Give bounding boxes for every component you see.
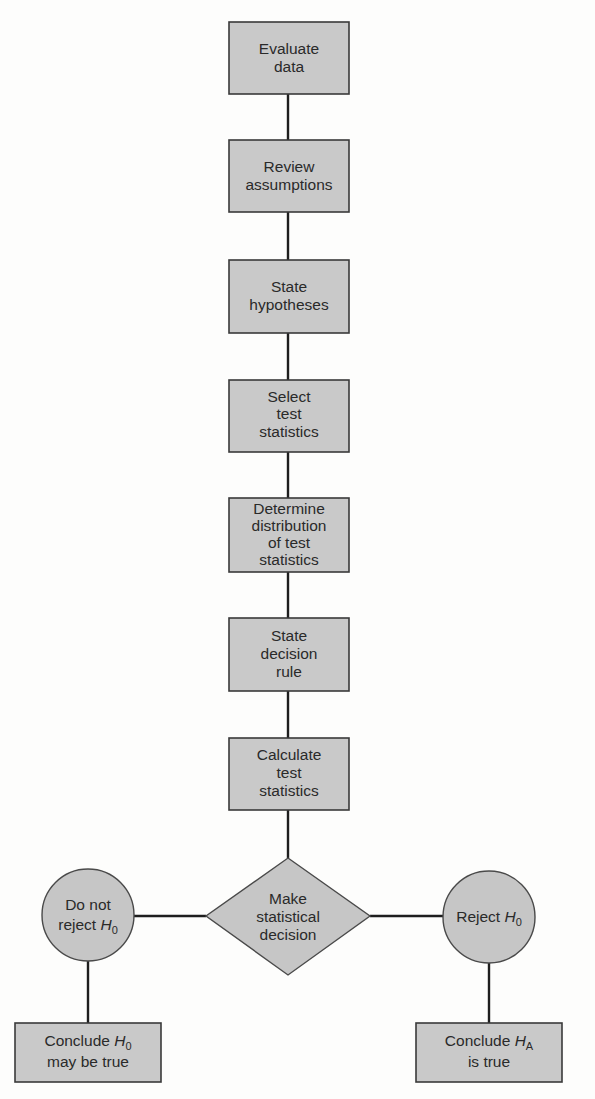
outcome-reject-h0: Reject H0	[443, 871, 535, 963]
step-label: Calculate	[257, 746, 322, 763]
hypothesis-subscript: 0	[112, 924, 118, 936]
decision-make-statistical-decision: Make statistical decision	[206, 858, 370, 975]
decision-label: decision	[260, 926, 317, 943]
hypothesis-symbol: H	[100, 916, 112, 933]
hypothesis-subscript: A	[526, 1040, 534, 1052]
step-state-hypotheses: State hypotheses	[229, 260, 349, 333]
step-label: test	[277, 764, 303, 781]
step-state-decision-rule: State decision rule	[229, 618, 349, 691]
step-determine-distribution: Determine distribution of test statistic…	[229, 498, 349, 572]
step-calculate-test-statistics: Calculate test statistics	[229, 738, 349, 810]
step-label: distribution	[252, 517, 327, 534]
step-label: Determine	[253, 500, 325, 517]
step-evaluate-data: Evaluate data	[229, 22, 349, 94]
decision-label: statistical	[256, 908, 320, 925]
step-label: statistics	[259, 423, 319, 440]
step-label: assumptions	[245, 176, 332, 193]
conclusion-label-text: Conclude	[44, 1032, 114, 1049]
conclusion-label: is true	[468, 1053, 510, 1070]
hypothesis-subscript: 0	[516, 916, 522, 928]
step-label: statistics	[259, 551, 319, 568]
conclusion-label: may be true	[47, 1053, 129, 1070]
step-label: decision	[261, 645, 318, 662]
step-label: Evaluate	[259, 40, 319, 57]
conclusion-label-text: Conclude	[445, 1032, 515, 1049]
outcome-do-not-reject-h0: Do not reject H0	[42, 869, 134, 961]
step-review-assumptions: Review assumptions	[229, 140, 349, 212]
step-label: Review	[264, 158, 316, 175]
step-label: State	[271, 627, 307, 644]
outcome-label-text: reject	[58, 916, 100, 933]
hypothesis-testing-flowchart: Evaluate data Review assumptions State h…	[0, 0, 595, 1099]
outcome-label: Do not	[65, 896, 111, 913]
step-label: of test	[268, 534, 311, 551]
decision-label: Make	[269, 890, 307, 907]
outcome-label-text: Reject	[456, 908, 504, 925]
hypothesis-symbol: H	[504, 908, 516, 925]
step-label: test	[277, 405, 303, 422]
hypothesis-symbol: H	[114, 1032, 126, 1049]
step-label: rule	[276, 663, 302, 680]
step-label: statistics	[259, 782, 319, 799]
hypothesis-symbol: H	[515, 1032, 527, 1049]
step-label: State	[271, 278, 307, 295]
step-label: data	[274, 58, 305, 75]
step-label: Select	[267, 388, 311, 405]
step-label: hypotheses	[249, 296, 329, 313]
conclusion-ha-is-true: Conclude HA is true	[416, 1023, 562, 1082]
outcome-circle	[42, 869, 134, 961]
step-select-test-statistics: Select test statistics	[229, 380, 349, 452]
conclusion-h0-may-be-true: Conclude H0 may be true	[15, 1023, 161, 1082]
hypothesis-subscript: 0	[125, 1040, 131, 1052]
